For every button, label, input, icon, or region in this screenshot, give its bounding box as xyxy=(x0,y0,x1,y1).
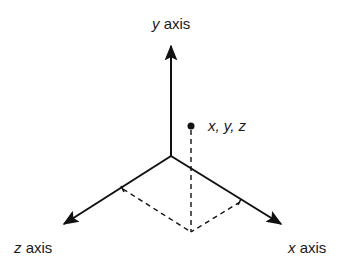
y-axis-label: y axis xyxy=(151,15,190,32)
x-axis-label: x axis xyxy=(287,239,326,256)
z-axis-label: z axis xyxy=(13,239,52,256)
point-label: x, y, z xyxy=(207,117,247,134)
projection-x xyxy=(191,202,240,232)
z-axis-line xyxy=(64,156,171,224)
projection-z xyxy=(123,189,191,232)
point-marker xyxy=(188,123,195,130)
x-axis-line xyxy=(171,156,281,224)
coordinate-diagram: y axis z axis x axis x, y, z xyxy=(0,0,349,262)
